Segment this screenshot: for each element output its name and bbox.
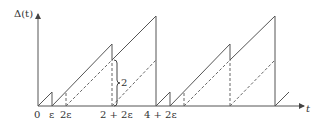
y-axis-label: Δ(t) [14,8,33,19]
bracket-label: 2 [121,77,127,88]
tick-2epsilon: 2ε [60,109,72,120]
sawtooth-diagram: Δ(t) t 2 0 ε 2ε 2 + 2ε 4 + 2ε [0,0,317,125]
tick-0: 0 [34,109,40,120]
x-axis-label: t [306,103,310,114]
tick-4-plus-2epsilon: 4 + 2ε [144,109,177,120]
diagram-graphic [0,0,317,125]
bracket-icon [114,60,120,106]
tick-epsilon: ε [49,109,54,120]
age-curve-solid [38,16,289,106]
tick-2-plus-2epsilon: 2 + 2ε [100,109,133,120]
